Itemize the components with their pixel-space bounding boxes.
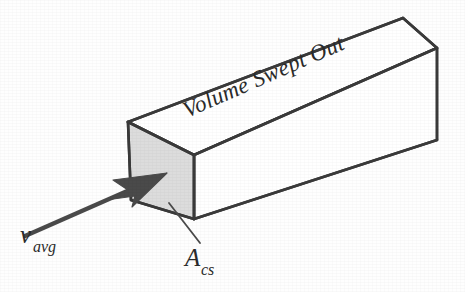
- volume-swept-out-diagram: Volume Swept Out v avg A cs: [0, 0, 465, 292]
- velocity-label-subscript: avg: [33, 238, 56, 256]
- velocity-label-symbol: v: [20, 221, 32, 248]
- area-label-symbol: A: [183, 244, 201, 271]
- area-label-group: A cs: [183, 244, 214, 278]
- figure-container: Volume Swept Out v avg A cs: [0, 0, 465, 292]
- area-label-subscript: cs: [201, 261, 214, 278]
